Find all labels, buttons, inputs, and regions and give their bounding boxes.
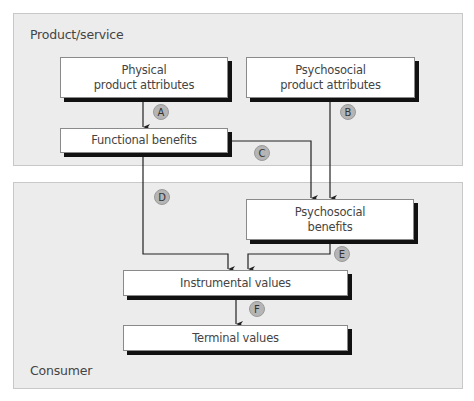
node-psychosocial-benefits: Psychosocial benefits [246,199,414,240]
badge-a: A [153,104,169,120]
badge-d: D [154,189,170,205]
panel-label-product-service: Product/service [30,27,123,42]
node-psychosocial-product-attributes: Psychosocial product attributes [246,57,415,98]
badge-f: F [249,301,265,317]
node-terminal-values: Terminal values [123,325,348,351]
node-functional-benefits: Functional benefits [60,128,228,153]
node-physical-product-attributes: Physical product attributes [60,57,228,98]
badge-e: E [334,246,350,262]
badge-b: B [340,104,356,120]
badge-c: C [254,145,270,161]
node-instrumental-values: Instrumental values [123,270,348,296]
panel-label-consumer: Consumer [30,363,92,378]
